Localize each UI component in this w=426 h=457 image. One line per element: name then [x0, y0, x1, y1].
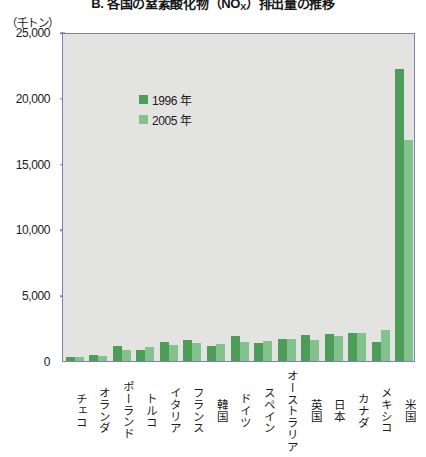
- bar-2005: [287, 339, 296, 361]
- x-axis-tick-label: 韓国: [203, 366, 227, 456]
- bar-1996: [136, 350, 145, 361]
- legend-item-2005: 2005 年: [139, 111, 192, 128]
- bar-group: [113, 34, 131, 361]
- bar-1996: [89, 355, 98, 361]
- x-axis-tick-label: オランダ: [86, 366, 110, 456]
- bar-2005: [145, 347, 154, 361]
- bar-1996: [348, 333, 357, 361]
- bar-2005: [98, 356, 107, 361]
- bar-group: [254, 34, 272, 361]
- bar-1996: [231, 336, 240, 361]
- plot-area: 1996 年 2005 年: [62, 33, 415, 362]
- y-axis-tick-label: 0: [44, 355, 50, 369]
- x-axis-tick-label: オーストラリア: [274, 366, 298, 456]
- bar-2005: [404, 140, 413, 361]
- bar-1996: [183, 340, 192, 361]
- x-axis-tick-label: カナダ: [344, 366, 368, 456]
- bar-2005: [240, 342, 249, 361]
- chart-legend: 1996 年 2005 年: [139, 91, 192, 131]
- x-axis-tick-label: メキシコ: [368, 366, 392, 456]
- chart-title: B. 各国の窒素酸化物（NOX）排出量の推移: [0, 0, 426, 12]
- bar-2005: [216, 344, 225, 361]
- bar-1996: [301, 335, 310, 361]
- bar-2005: [75, 357, 84, 361]
- bar-group: [231, 34, 249, 361]
- bar-group: [301, 34, 319, 361]
- bar-group: [183, 34, 201, 361]
- y-axis-tick-label: 10,000: [16, 223, 50, 237]
- bar-group: [348, 34, 366, 361]
- x-axis-tick-label: フランス: [180, 366, 204, 456]
- chart-title-prefix: B. 各国の窒素酸化物（NO: [91, 0, 240, 11]
- x-axis-tick-label: トルコ: [133, 366, 157, 456]
- y-axis-tick-label: 20,000: [16, 92, 50, 106]
- x-axis-tick-label: チェコ: [62, 366, 86, 456]
- bar-group: [395, 34, 413, 361]
- bar-1996: [372, 342, 381, 361]
- bar-1996: [395, 69, 404, 361]
- bar-2005: [357, 333, 366, 361]
- legend-label-1996: 1996 年: [152, 91, 192, 108]
- bar-1996: [160, 342, 169, 361]
- bar-group: [207, 34, 225, 361]
- x-axis-tick-label: イタリア: [156, 366, 180, 456]
- legend-item-1996: 1996 年: [139, 91, 192, 108]
- bar-2005: [192, 343, 201, 361]
- bar-group: [160, 34, 178, 361]
- bar-group: [136, 34, 154, 361]
- y-axis-tick-label: 15,000: [16, 158, 50, 172]
- chart-title-suffix: ）排出量の推移: [246, 0, 335, 11]
- legend-swatch-1996-icon: [139, 95, 148, 104]
- x-axis-tick-label: ポーランド: [109, 366, 133, 456]
- bar-1996: [113, 346, 122, 361]
- x-axis-tick-label: スペイン: [250, 366, 274, 456]
- x-axis-tick-label: 英国: [297, 366, 321, 456]
- bar-2005: [169, 345, 178, 361]
- bar-2005: [381, 330, 390, 361]
- bar-2005: [122, 350, 131, 361]
- bar-1996: [66, 357, 75, 361]
- bar-group: [278, 34, 296, 361]
- x-axis-tick-label: 日本: [321, 366, 345, 456]
- bar-1996: [325, 334, 334, 361]
- y-axis-tick-label: 25,000: [16, 26, 50, 40]
- x-axis: チェコオランダポーランドトルコイタリアフランス韓国ドイツスペインオーストラリア英…: [62, 366, 415, 457]
- y-axis-tick-label: 5,000: [22, 289, 50, 303]
- bars-layer: [63, 34, 414, 361]
- x-axis-tick-label: ドイツ: [227, 366, 251, 456]
- bar-2005: [310, 340, 319, 361]
- bar-group: [89, 34, 107, 361]
- y-axis: 05,00010,00015,00020,00025,000: [0, 33, 58, 362]
- bar-2005: [263, 341, 272, 361]
- legend-label-2005: 2005 年: [152, 111, 192, 128]
- bar-group: [372, 34, 390, 361]
- bar-group: [325, 34, 343, 361]
- bar-2005: [334, 336, 343, 361]
- legend-swatch-2005-icon: [139, 115, 148, 124]
- bar-group: [66, 34, 84, 361]
- x-axis-tick-label: 米国: [391, 366, 415, 456]
- bar-1996: [278, 339, 287, 361]
- bar-1996: [254, 343, 263, 361]
- bar-1996: [207, 346, 216, 361]
